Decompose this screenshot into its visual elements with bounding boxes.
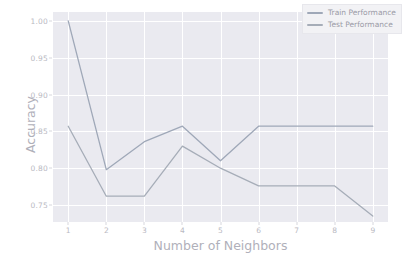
chart-figure: 1.000.950.900.850.800.75 123456789 Accur… (0, 0, 406, 266)
x-tick-label: 4 (180, 226, 185, 235)
legend-line-swatch (307, 24, 323, 26)
y-tick-label: 0.75 (31, 201, 49, 210)
x-tick-mark (258, 222, 259, 225)
x-tick-label: 6 (256, 226, 261, 235)
x-tick-label: 7 (294, 226, 299, 235)
x-tick-label: 9 (370, 226, 375, 235)
y-tick-label: 1.00 (31, 16, 49, 25)
x-tick-mark (68, 222, 69, 225)
x-tick-label: 8 (332, 226, 337, 235)
legend-label: Test Performance (328, 20, 393, 30)
data-lines (53, 12, 388, 222)
y-axis-label: Accuracy (23, 55, 38, 195)
y-tick-mark (49, 205, 52, 206)
x-tick-label: 5 (218, 226, 223, 235)
chart-legend: Train PerformanceTest Performance (302, 4, 402, 34)
y-tick-mark (49, 168, 52, 169)
x-axis-label: Number of Neighbors (53, 238, 388, 253)
x-tick-mark (106, 222, 107, 225)
plot-area (53, 12, 388, 222)
y-tick-mark (49, 94, 52, 95)
y-tick-mark (49, 20, 52, 21)
x-tick-label: 3 (142, 226, 147, 235)
y-tick-mark (49, 131, 52, 132)
legend-item: Train Performance (307, 8, 396, 18)
x-tick-mark (334, 222, 335, 225)
x-tick-mark (372, 222, 373, 225)
x-tick-mark (182, 222, 183, 225)
y-tick-mark (49, 57, 52, 58)
legend-item: Test Performance (307, 20, 396, 30)
series-line (68, 126, 373, 216)
x-tick-label: 2 (104, 226, 109, 235)
legend-line-swatch (307, 12, 323, 14)
series-line (68, 21, 373, 170)
x-tick-mark (144, 222, 145, 225)
x-tick-mark (296, 222, 297, 225)
x-tick-label: 1 (66, 226, 71, 235)
legend-label: Train Performance (328, 8, 396, 18)
x-tick-mark (220, 222, 221, 225)
